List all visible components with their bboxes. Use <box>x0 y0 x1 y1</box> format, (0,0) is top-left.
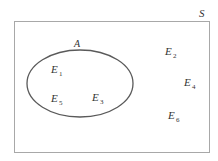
set-a-label: A <box>73 38 81 49</box>
outcome-e2-base: E <box>164 45 172 57</box>
outcome-e4-base: E <box>183 76 191 88</box>
outcome-e4: E 4 <box>183 76 196 91</box>
sample-space-rect <box>15 22 210 153</box>
outcome-e5-sub: 5 <box>59 99 63 107</box>
outcome-e3: E 3 <box>91 91 104 106</box>
outcome-e6-sub: 6 <box>176 116 180 124</box>
outcome-e6: E 6 <box>167 109 180 124</box>
outcome-e1-sub: 1 <box>59 70 63 78</box>
outcome-e2: E 2 <box>164 45 177 60</box>
set-a-ellipse <box>27 50 133 117</box>
sample-space-label: S <box>199 7 205 19</box>
outcome-e3-base: E <box>91 91 99 103</box>
outcome-e2-sub: 2 <box>173 52 177 60</box>
outcome-e5: E 5 <box>50 92 63 107</box>
outcome-e5-base: E <box>50 92 58 104</box>
venn-diagram: S A E 1 E 5 E 3 E 2 E 4 E 6 <box>0 0 218 161</box>
outcome-e1: E 1 <box>50 63 63 78</box>
outcome-e1-base: E <box>50 63 58 75</box>
outcome-e4-sub: 4 <box>192 83 196 91</box>
outcome-e6-base: E <box>167 109 175 121</box>
outcome-e3-sub: 3 <box>100 98 104 106</box>
